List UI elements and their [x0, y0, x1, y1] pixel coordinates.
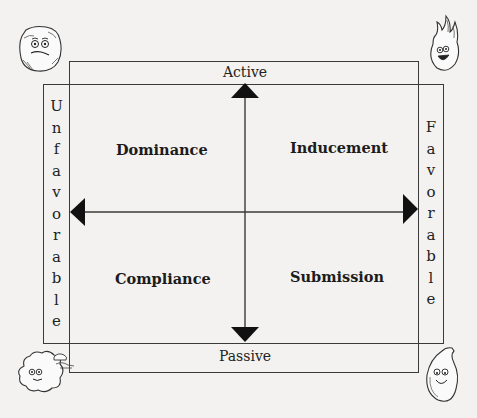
quadrant-dominance: Dominance [116, 141, 208, 158]
arrow-right-icon [403, 194, 418, 224]
letter: a [52, 247, 61, 269]
letter: e [427, 289, 436, 311]
pole-unfavorable: U n f a v o r a b l e [43, 96, 70, 333]
letter: l [429, 268, 434, 290]
arrow-up-icon [231, 83, 259, 98]
pole-favorable: F a v o r a b l e [418, 117, 444, 311]
letter: r [427, 203, 434, 225]
pole-active: Active [200, 64, 290, 80]
letter: F [426, 117, 436, 139]
cloud-face-icon [16, 348, 76, 394]
letter: n [52, 118, 62, 140]
letter: a [427, 225, 436, 247]
letter: v [52, 182, 60, 204]
letter: b [426, 246, 436, 268]
letter: e [52, 311, 61, 333]
arrow-left-icon [70, 198, 85, 226]
letter: f [54, 139, 60, 161]
letter: v [427, 160, 435, 182]
letter: b [52, 268, 62, 290]
flame-face-icon [425, 14, 465, 74]
letter: a [427, 139, 436, 161]
quadrant-compliance: Compliance [115, 270, 211, 287]
water-drop-face-icon [422, 345, 462, 405]
quadrant-inducement: Inducement [290, 139, 388, 156]
arrow-down-icon [231, 327, 259, 342]
rock-face-icon [18, 24, 64, 74]
letter: o [52, 204, 61, 226]
letter: a [52, 161, 61, 183]
letter: l [54, 290, 59, 312]
letter: o [426, 182, 435, 204]
letter: U [50, 96, 63, 118]
letter: r [53, 225, 60, 247]
quadrant-submission: Submission [290, 268, 384, 285]
pole-passive: Passive [200, 348, 290, 364]
